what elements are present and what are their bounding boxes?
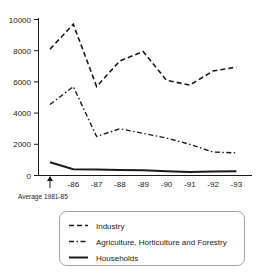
chart-series-group (50, 24, 236, 172)
y-axis-tick-labels: 10000 8000 6000 4000 2000 0 (9, 16, 32, 181)
line-chart: 10000 8000 6000 4000 2000 0 -86-87-88-89… (0, 0, 259, 274)
legend-label-industry: Industry (96, 222, 124, 231)
x-tick-label-y90: -90 (161, 180, 173, 189)
legend-item-industry[interactable]: Industry (69, 222, 124, 231)
average-marker (47, 176, 53, 188)
y-tick-label-8000: 8000 (13, 47, 31, 56)
average-marker-label: Average 1981-85 (18, 193, 68, 201)
x-tick-label-y89: -89 (137, 180, 149, 189)
y-tick-label-10000: 10000 (9, 16, 32, 25)
y-tick-label-4000: 4000 (13, 109, 31, 118)
x-tick-label-y88: -88 (114, 180, 126, 189)
y-tick-label-2000: 2000 (13, 140, 31, 149)
x-tick-label-y86: -86 (68, 180, 80, 189)
x-tick-label-y87: -87 (91, 180, 103, 189)
legend-item-households[interactable]: Households (69, 254, 138, 263)
y-axis-ticks (34, 20, 39, 176)
x-tick-label-y93: -93 (231, 180, 243, 189)
x-axis-tick-labels: -86-87-88-89-90-91-92-93 (68, 180, 243, 189)
legend-label-agriculture: Agriculture, Horticulture and Forestry (96, 238, 227, 247)
series-line-industry (50, 24, 236, 86)
chart-legend: Industry Agriculture, Horticulture and F… (60, 212, 245, 266)
legend-item-agriculture[interactable]: Agriculture, Horticulture and Forestry (69, 238, 227, 247)
series-line-households (50, 162, 236, 172)
x-tick-label-y91: -91 (184, 180, 196, 189)
series-line-agriculture (50, 87, 236, 153)
y-tick-label-0: 0 (27, 172, 32, 181)
up-arrow-icon (47, 176, 53, 181)
chart-axes (39, 18, 253, 176)
x-tick-label-y92: -92 (207, 180, 219, 189)
chart-canvas: 10000 8000 6000 4000 2000 0 -86-87-88-89… (0, 0, 259, 274)
legend-label-households: Households (96, 254, 138, 263)
y-tick-label-6000: 6000 (13, 78, 31, 87)
